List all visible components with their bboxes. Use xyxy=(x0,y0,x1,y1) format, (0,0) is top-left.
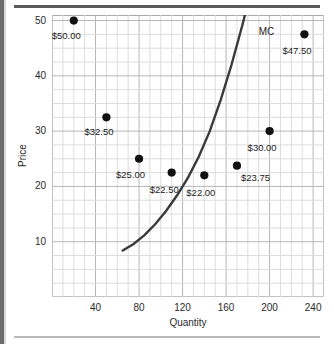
x-axis-tick-label: 40 xyxy=(81,302,111,313)
price-quantity-scatter-chart: 10203040504080120160200240 $50.00$32.50$… xyxy=(0,0,334,344)
mc-curve-label: MC xyxy=(259,26,275,37)
data-point-value-label: $23.75 xyxy=(241,172,270,183)
x-axis-tick-label: 240 xyxy=(298,302,328,313)
y-axis-tick-label: 10 xyxy=(18,236,46,247)
screenshot-page: 10203040504080120160200240 $50.00$32.50$… xyxy=(0,0,334,344)
data-point-marker xyxy=(102,113,110,121)
data-point-value-label: $50.00 xyxy=(52,30,81,41)
data-point-value-label: $25.00 xyxy=(116,169,145,180)
x-axis-tick-label: 120 xyxy=(168,302,198,313)
data-point-marker xyxy=(300,30,308,38)
data-point-marker xyxy=(168,168,176,176)
x-axis-tick-label: 80 xyxy=(124,302,154,313)
y-axis-tick-label: 50 xyxy=(18,15,46,26)
data-point-value-label: $22.00 xyxy=(186,187,215,198)
data-point-value-label: $30.00 xyxy=(248,142,277,153)
data-point-value-label: $47.50 xyxy=(282,45,311,56)
y-axis-title: Price xyxy=(17,126,28,186)
mc-curve xyxy=(123,12,246,250)
x-axis-title: Quantity xyxy=(128,317,248,328)
data-point-marker xyxy=(135,155,143,163)
data-point-marker xyxy=(70,16,78,24)
data-point-marker xyxy=(233,162,241,170)
data-point-value-label: $32.50 xyxy=(84,126,113,137)
x-axis-tick-label: 160 xyxy=(211,302,241,313)
data-point-marker xyxy=(266,127,274,135)
y-axis-tick-label: 40 xyxy=(18,70,46,81)
data-point-marker xyxy=(200,171,208,179)
data-point-value-label: $22.50 xyxy=(150,184,179,195)
x-axis-tick-label: 200 xyxy=(255,302,285,313)
